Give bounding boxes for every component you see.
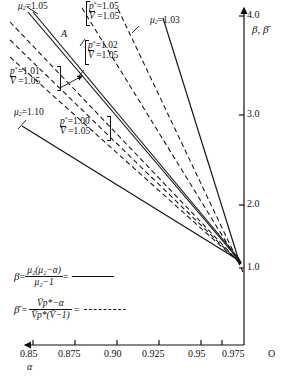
beta-solid-lines: [22, 12, 240, 261]
annotation-p100-line2: V =1.05: [60, 127, 90, 137]
formula-betabar-denominator: V̄p*(V̄−1): [29, 309, 72, 321]
formula-betabar-lhs: β̄: [14, 303, 19, 315]
v-bar-symbol: V: [60, 127, 66, 137]
y-tick-3: 3.0: [247, 108, 260, 119]
figure-container: μ2=1.05 μ2=1.03 μ2=1.10 A p*=1.05 V =1.0…: [0, 0, 285, 387]
annotation-p102: p*=1.02 V =1.05: [88, 40, 118, 61]
y-tick-2: 2.0: [247, 198, 260, 209]
formula-betabar-eq2: =: [74, 304, 80, 315]
brace-p105: [86, 1, 90, 26]
x-tick-1: 0.875: [58, 348, 81, 359]
formula-betabar-eq1: =: [21, 304, 27, 315]
x-tick-3: 0.925: [142, 348, 165, 359]
y-axis: [239, 8, 244, 345]
x-tick-5: 0.975: [222, 348, 245, 359]
annotation-p105-line2: V =1.05: [89, 12, 119, 22]
formula-beta-fraction: μ₂(μ₂−α) μ₂−1: [25, 265, 63, 287]
formula-betabar: β̄ = V̄p*−α V̄p*(V̄−1) =: [14, 298, 126, 320]
convergence-point: [238, 260, 241, 263]
formula-beta: β = μ₂(μ₂−α) μ₂−1 =: [14, 265, 114, 287]
annotation-mu-103: μ2=1.03: [150, 16, 180, 26]
mu-103-value: =1.03: [158, 15, 180, 25]
annotation-p100: p*=1.00 V =1.05: [60, 116, 90, 137]
x-tick-4: 0.95: [188, 348, 206, 359]
betabar-line-p101: [10, 40, 241, 264]
x-axis: [25, 340, 244, 345]
formula-beta-numerator: μ₂(μ₂−α): [25, 265, 63, 276]
v-bar-symbol: V: [10, 77, 16, 87]
mu-110-value: =1.10: [22, 107, 44, 117]
x-axis-title: α: [27, 362, 32, 373]
v100-value: =1.05: [66, 126, 90, 136]
formula-beta-eq2: =: [63, 271, 69, 282]
y-axis-title: β, β̄: [252, 24, 268, 36]
x-tick-2: 0.90: [104, 348, 122, 359]
mu-105-value: =1.05: [26, 1, 48, 11]
brace-p101: [57, 66, 61, 91]
annotation-mu-105: μ2=1.05: [18, 2, 48, 12]
leader-mu103: [132, 26, 139, 33]
annotation-p101-line2: V =1.05: [10, 77, 40, 87]
y-tick-1: 1.0: [247, 261, 260, 272]
plot-canvas: [0, 0, 285, 387]
legend-key-solid-beta: [72, 276, 114, 277]
legend-key-dashed-betabar: [84, 309, 126, 310]
annotation-p102-line2: V =1.05: [88, 51, 118, 61]
brace-p102: [85, 40, 89, 65]
annotation-p105: p*=1.05 V =1.05: [89, 1, 119, 22]
beta-line-mu110: [22, 126, 240, 261]
p102-value: =1.02: [96, 40, 118, 50]
formula-betabar-numerator: V̄p*−α: [29, 298, 72, 309]
p100-value: =1.00: [68, 116, 90, 126]
p101-value: =1.01: [18, 66, 40, 76]
v102-value: =1.05: [94, 50, 118, 60]
formula-betabar-fraction: V̄p*−α V̄p*(V̄−1): [29, 298, 72, 320]
annotation-mu-110: μ2=1.10: [14, 108, 44, 118]
annotation-p101: p*=1.01 V =1.05: [10, 66, 40, 87]
origin-label: O: [268, 348, 275, 359]
brace-p100: [107, 116, 111, 141]
formula-beta-denominator: μ₂−1: [25, 276, 63, 288]
y-tick-4: 4.0: [247, 9, 260, 20]
v105-value: =1.05: [95, 11, 119, 21]
point-label-a: A: [61, 29, 67, 40]
betabar-line-p102: [10, 22, 240, 263]
v101-value: =1.05: [16, 76, 40, 86]
x-tick-0: 0.85: [20, 348, 38, 359]
p105-value: =1.05: [97, 1, 119, 11]
